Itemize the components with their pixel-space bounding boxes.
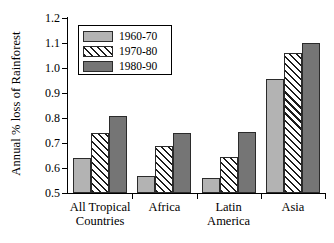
legend-swatch-1980-90 [83,61,113,72]
legend-item: 1980-90 [83,59,167,73]
legend-label: 1960-70 [119,30,157,42]
bar [202,178,220,193]
legend-label: 1970-80 [119,45,157,57]
bar [109,116,127,194]
x-tick [325,194,326,199]
y-tick [62,68,67,69]
y-tick-label: 0.6 [28,162,60,174]
y-tick [62,18,67,19]
bar [91,133,109,193]
bar [173,133,191,193]
y-tick [62,193,67,194]
y-tick-label: 1.1 [28,37,60,49]
x-tick [197,194,198,199]
y-tick-label: 0.7 [28,137,60,149]
x-tick [132,194,133,199]
y-tick [62,143,67,144]
legend: 1960-70 1970-80 1980-90 [78,25,172,75]
y-axis-title: Annual % loss of Rainforest [10,9,23,199]
bar [238,132,256,193]
bar [266,79,284,193]
bar [137,176,155,194]
legend-item: 1960-70 [83,29,167,43]
y-tick-label: 0.9 [28,87,60,99]
y-tick [62,93,67,94]
bar [73,158,91,193]
bar [220,157,238,193]
y-tick-label: 0.5 [28,187,60,199]
legend-item: 1970-80 [83,44,167,58]
legend-swatch-1960-70 [83,31,113,42]
y-tick [62,43,67,44]
y-tick [62,168,67,169]
bar [284,53,302,193]
y-tick-label: 0.8 [28,112,60,124]
legend-label: 1980-90 [119,60,157,72]
bar [155,146,173,194]
x-axis-category-label: Asia [249,200,334,214]
y-tick [62,118,67,119]
bar-chart: Annual % loss of Rainforest 0.50.60.70.8… [0,0,334,243]
y-tick-label: 1.2 [28,12,60,24]
legend-swatch-1970-80 [83,46,113,57]
x-tick [261,194,262,199]
y-tick-label: 1.0 [28,62,60,74]
bar [302,43,320,193]
